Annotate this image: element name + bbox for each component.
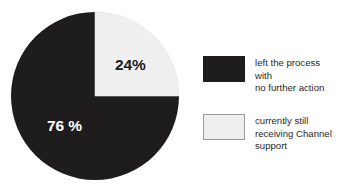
legend-swatch-dark	[203, 56, 245, 82]
legend-item-left-the-process: left the process with no further action	[203, 56, 337, 95]
pie-label-dark-slice: 76 %	[47, 118, 82, 134]
pie-chart: 24% 76 %	[11, 12, 179, 180]
pie-chart-figure: 24% 76 % left the process with no furthe…	[0, 0, 337, 196]
legend-label-still-receiving-support: currently still receiving Channel suppor…	[255, 114, 332, 153]
legend-item-still-receiving-support: currently still receiving Channel suppor…	[203, 114, 332, 153]
legend-swatch-light	[203, 114, 245, 140]
pie-label-white-slice: 24%	[115, 57, 146, 73]
legend-label-left-the-process: left the process with no further action	[255, 56, 337, 95]
pie-svg	[11, 12, 179, 180]
pie-slice-light	[95, 12, 179, 96]
